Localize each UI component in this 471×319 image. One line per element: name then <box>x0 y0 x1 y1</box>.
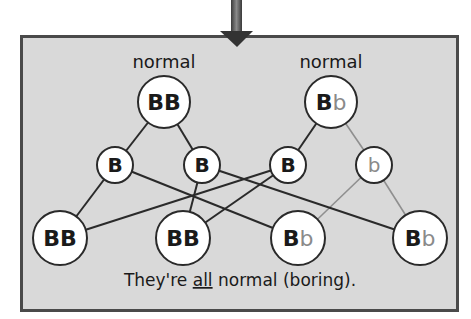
dominant-allele: B <box>147 90 164 115</box>
caption-before: They're <box>123 270 193 290</box>
recessive-allele: b <box>421 226 435 251</box>
gamete-node: b <box>356 147 392 183</box>
dominant-allele: B <box>43 226 60 251</box>
caption: They're all normal (boring). <box>123 270 356 290</box>
dominant-allele: B <box>183 226 200 251</box>
parent-genotype-label: Bb <box>316 90 347 115</box>
offspring-node: Bb <box>271 211 325 265</box>
recessive-allele: b <box>368 153 381 177</box>
gamete-genotype-label: B <box>194 153 209 177</box>
gamete-node: B <box>270 147 306 183</box>
dominant-allele: B <box>405 226 422 251</box>
parent-genotype-label: BB <box>147 90 181 115</box>
dominant-allele: B <box>194 153 209 177</box>
parent-node: BB <box>138 76 190 128</box>
dominant-allele: B <box>107 153 122 177</box>
inheritance-diagram: BBBbBBBbBBBBBbBb normal normal They're a… <box>0 0 471 319</box>
parent-title: normal <box>132 51 195 72</box>
caption-after: normal (boring). <box>213 270 357 290</box>
gamete-genotype-label: B <box>280 153 295 177</box>
gamete-node: B <box>184 147 220 183</box>
dominant-allele: B <box>164 90 181 115</box>
offspring-genotype-label: BB <box>43 226 77 251</box>
gamete-genotype-label: b <box>368 153 381 177</box>
offspring-genotype-label: Bb <box>405 226 436 251</box>
caption-emphasis: all <box>193 270 213 290</box>
down-arrow-icon <box>220 0 253 47</box>
dominant-allele: B <box>316 90 333 115</box>
offspring-genotype-label: Bb <box>283 226 314 251</box>
offspring-genotype-label: BB <box>166 226 200 251</box>
offspring-node: Bb <box>393 211 447 265</box>
gamete-node: B <box>97 147 133 183</box>
offspring-node: BB <box>33 211 87 265</box>
gamete-genotype-label: B <box>107 153 122 177</box>
dominant-allele: B <box>280 153 295 177</box>
offspring-node: BB <box>156 211 210 265</box>
dominant-allele: B <box>60 226 77 251</box>
nodes-layer: BBBbBBBbBBBBBbBb <box>33 76 447 265</box>
parent-title: normal <box>299 51 362 72</box>
recessive-allele: b <box>332 90 346 115</box>
parent-node: Bb <box>305 76 357 128</box>
dominant-allele: B <box>283 226 300 251</box>
recessive-allele: b <box>299 226 313 251</box>
dominant-allele: B <box>166 226 183 251</box>
